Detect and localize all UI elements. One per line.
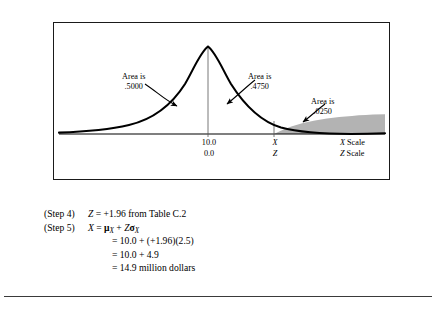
step-4-equals: = [96,208,101,219]
area-0250-line2: .0250 [311,107,334,117]
step-5-line-1-text: = 10.0 + (+1.96)(2.5) [112,235,194,246]
step-5-line-1: = 10.0 + (+1.96)(2.5) [44,234,195,248]
step-5-equals: = [96,222,101,233]
step-5-tag: (Step 5) [44,221,88,235]
area-5000-line1: Area is [122,72,145,82]
axis-label-cutpoint-x: X [268,138,282,149]
step-4-body: Z = +1.96 from Table C.2 [88,207,186,221]
step-5-line-3-text: = 14.9 million dollars [112,262,195,273]
area-5000-line2: .5000 [122,82,145,92]
bottom-divider [4,296,432,297]
area-5000-annotation: Area is .5000 [122,72,145,92]
axis-label-cutpoint-z: Z [268,149,282,160]
area-5000-arrow [145,84,177,106]
x-scale-symbol: X [340,138,345,147]
step-5-line-2: = 10.0 + 4.9 [44,248,195,262]
z-scale-text: Scale [347,149,365,158]
area-4750-line2: .4750 [248,82,271,92]
step-5-line-3: = 14.9 million dollars [44,261,195,275]
step-4-tag: (Step 4) [44,207,88,221]
axis-label-mean: 10.0 0.0 [192,138,226,159]
step-5-line-2-text: = 10.0 + 4.9 [112,249,159,260]
figure-page: Area is .5000 Area is .4750 Area is .025… [0,0,437,314]
step-4-row: (Step 4)Z = +1.96 from Table C.2 [44,207,195,221]
z-scale-caption: Z Scale [340,149,365,160]
x-scale-text: Scale [347,138,365,147]
solution-steps: (Step 4)Z = +1.96 from Table C.2 (Step 5… [44,207,195,275]
axis-label-cutpoint: X Z [268,138,282,159]
step-4-symbol: Z [88,208,93,219]
area-4750-annotation: Area is .4750 [248,72,271,92]
step-5-plus: + [116,222,121,233]
z-scale-symbol: Z [340,149,345,158]
step-4-value: +1.96 from Table C.2 [104,208,187,219]
step-5-row: (Step 5)X = μX + ZσX [44,221,195,235]
axis-label-mean-x: 10.0 [192,138,226,149]
area-0250-annotation: Area is .0250 [311,97,334,117]
axis-scale-captions: X Scale Z Scale [340,138,365,159]
axis-label-mean-z: 0.0 [192,149,226,160]
area-4750-line1: Area is [248,72,271,82]
step-5-symbol: X [88,222,94,233]
x-scale-caption: X Scale [340,138,365,149]
area-0250-line1: Area is [311,97,334,107]
